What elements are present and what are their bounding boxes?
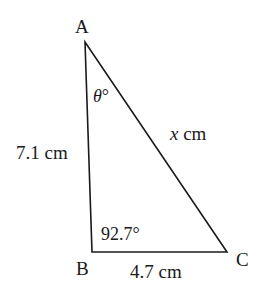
- side-bc-label: 4.7 cm: [130, 262, 182, 281]
- vertex-c-label: C: [236, 250, 249, 269]
- side-ab-label: 7.1 cm: [16, 143, 68, 162]
- side-ac-label: x cm: [170, 124, 206, 143]
- angle-b-label: 92.7°: [101, 225, 140, 243]
- vertex-b-label: B: [76, 259, 89, 278]
- vertex-a-label: A: [75, 17, 89, 36]
- triangle-abc: [85, 42, 227, 252]
- angle-a-label: θ°: [93, 87, 109, 105]
